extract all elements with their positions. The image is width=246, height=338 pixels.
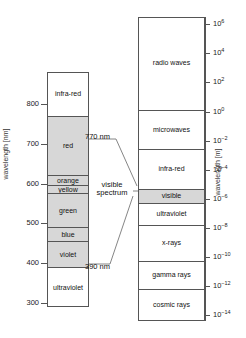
tick-label: 10−14 [213,310,231,319]
tick-label: 300 [26,298,39,307]
tick-label: 10−10 [213,252,231,261]
right-tick-1e-12: 10−12 [205,286,246,287]
left-tick-600: 600 [24,184,48,185]
spectrum-band-label: yellow [58,186,77,193]
left-tick-400: 400 [24,263,48,264]
em-band-gamma-rays: gamma rays [139,261,204,289]
tick-mark [205,24,210,25]
spectrum-band-label: blue [61,231,74,238]
right-tick-1e2: 102 [205,82,246,83]
spectrum-band-violet: violet [48,241,88,267]
tick-label: 100 [213,107,224,116]
spectrum-band-infra-red: infra-red [48,72,88,116]
tick-mark [205,257,210,258]
em-band-microwaves: microwaves [139,110,204,149]
em-band-label: ultraviolet [157,210,187,219]
right-tick-1e-8: 10−8 [205,228,246,229]
callout-upper-wavelength: 770 nm [85,133,110,141]
tick-mark [205,286,210,287]
spectrum-band-ultraviolet: ultraviolet [48,267,88,307]
spectrum-band-blue: blue [48,227,88,242]
spectrum-band-label: violet [60,251,76,258]
em-band-visible: visible [139,189,204,203]
em-band-label: cosmic rays [153,301,190,310]
tick-mark [205,82,210,83]
right-tick-1e4: 104 [205,53,246,54]
spectrum-band-label: infra-red [55,90,81,97]
spectrum-band-label: ultraviolet [53,284,83,291]
tick-mark [205,315,210,316]
tick-label: 106 [213,19,224,28]
right-tick-1e0: 100 [205,112,246,113]
visible-spectrum-label: visible spectrum [91,176,133,202]
tick-label: 10−8 [213,223,228,232]
right-tick-1e-10: 10−10 [205,257,246,258]
em-band-label: visible [162,192,181,201]
spectrum-band-label: red [63,142,73,149]
tick-mark [205,228,210,229]
spectrum-band-red: red [48,116,88,175]
tick-label: 10−12 [213,281,231,290]
left-axis-label: wavelength [nm] [2,122,14,186]
spectrum-band-yellow: yellow [48,185,88,193]
left-axis-ticks: 800700600500400300 [24,60,48,320]
right-tick-1e-14: 10−14 [205,315,246,316]
tick-label: 800 [26,99,39,108]
tick-label: 102 [213,77,224,86]
tick-mark [205,112,210,113]
left-tick-700: 700 [24,144,48,145]
tick-label: 400 [26,258,39,267]
tick-label: 700 [26,139,39,148]
left-tick-500: 500 [24,223,48,224]
left-tick-800: 800 [24,104,48,105]
right-tick-1e6: 106 [205,24,246,25]
spectrum-band-label: orange [57,177,79,184]
spectrum-band-label: green [59,207,77,214]
em-band-cosmic-rays: cosmic rays [139,289,204,321]
visible-spectrum-label-line2: spectrum [97,189,128,197]
em-band-infra-red: infra-red [139,149,204,189]
em-band-label: radio waves [153,59,190,68]
visible-spectrum-bar: infra-redredorangeyellowgreenbluevioletu… [47,72,89,307]
em-band-x-rays: x-rays [139,225,204,261]
right-axis-label: wavelength [m] [214,140,226,204]
figure-canvas: wavelength [nm] 800700600500400300 infra… [0,0,246,338]
em-band-label: gamma rays [152,271,191,280]
em-band-label: x-rays [162,239,181,248]
em-band-label: microwaves [153,126,190,135]
tick-label: 600 [26,179,39,188]
left-tick-300: 300 [24,303,48,304]
tick-mark [205,170,210,171]
tick-label: 104 [213,48,224,57]
em-band-radio-waves: radio waves [139,17,204,110]
spectrum-band-orange: orange [48,175,88,185]
tick-mark [205,141,210,142]
tick-mark [205,199,210,200]
tick-label: 500 [26,218,39,227]
spectrum-band-green: green [48,193,88,227]
em-spectrum-bar: radio wavesmicrowavesinfra-redvisibleult… [138,17,205,321]
callout-lower-wavelength: 390 nm [85,263,110,271]
em-band-ultraviolet: ultraviolet [139,203,204,225]
em-band-label: infra-red [158,165,184,174]
tick-mark [205,53,210,54]
